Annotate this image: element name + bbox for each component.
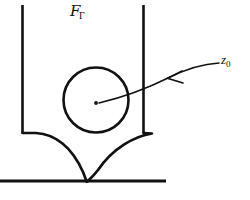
figure-canvas: FΓ z0 <box>0 0 250 200</box>
point-label-subscript: 0 <box>226 59 231 69</box>
right-boundary-arc <box>88 133 153 182</box>
diagram-svg <box>0 0 250 200</box>
pointer-leader-line <box>99 63 219 103</box>
domain-label: FΓ <box>70 4 85 21</box>
domain-label-subscript: Γ <box>79 10 85 21</box>
marked-point-dot <box>94 101 98 105</box>
left-boundary-arc <box>23 133 87 182</box>
inscribed-circle <box>64 68 129 133</box>
point-label: z0 <box>221 53 231 69</box>
